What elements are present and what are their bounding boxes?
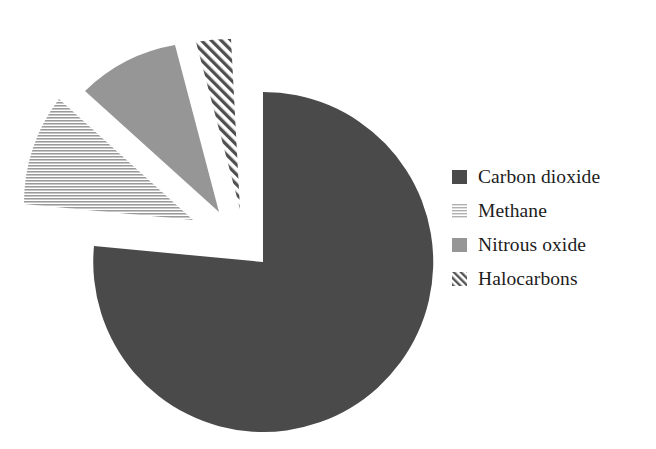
legend-swatch-horizontal-lines-icon bbox=[452, 204, 467, 218]
chart-legend: Carbon dioxide Methane Nitrous oxide Hal… bbox=[452, 160, 652, 296]
legend-label-carbon-dioxide: Carbon dioxide bbox=[478, 167, 600, 187]
legend-label-methane: Methane bbox=[478, 201, 547, 221]
legend-item-carbon-dioxide[interactable]: Carbon dioxide bbox=[452, 160, 652, 194]
legend-item-nitrous-oxide[interactable]: Nitrous oxide bbox=[452, 228, 652, 262]
pie-chart-figure: Carbon dioxide Methane Nitrous oxide Hal… bbox=[0, 0, 656, 449]
legend-swatch-diagonal-hatch-icon bbox=[452, 272, 467, 286]
legend-item-halocarbons[interactable]: Halocarbons bbox=[452, 262, 652, 296]
legend-label-nitrous-oxide: Nitrous oxide bbox=[478, 235, 586, 255]
legend-item-methane[interactable]: Methane bbox=[452, 194, 652, 228]
legend-swatch-solid-dark-icon bbox=[452, 170, 467, 184]
legend-label-halocarbons: Halocarbons bbox=[478, 269, 578, 289]
legend-swatch-solid-gray-icon bbox=[452, 238, 467, 252]
